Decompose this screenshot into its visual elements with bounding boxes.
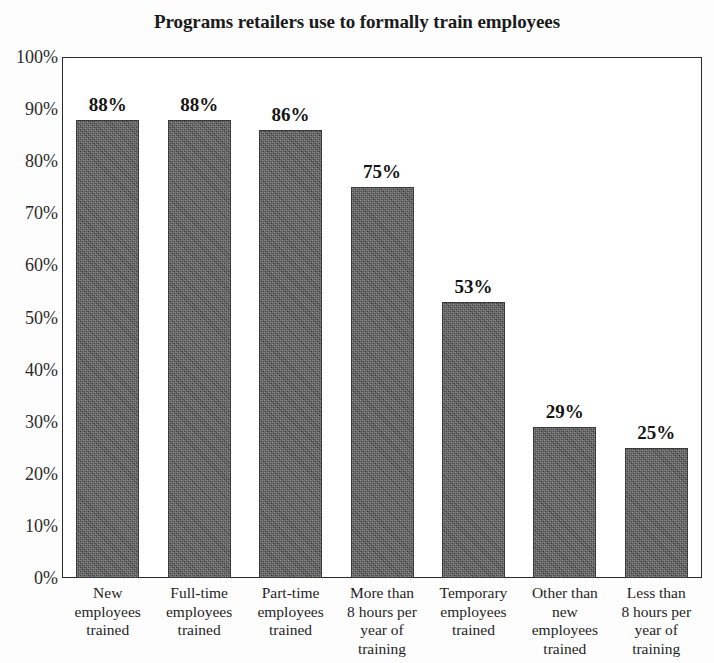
x-axis-category-label-line: employees [515, 621, 614, 640]
x-axis-category-label-line: trained [424, 621, 523, 640]
bar-value-label: 53% [428, 276, 519, 298]
x-axis-category-label-line: training [607, 640, 706, 659]
x-axis-category-label-line: employees [241, 603, 340, 622]
bar-value-label: 29% [519, 401, 610, 423]
bar [533, 427, 596, 578]
y-axis-tick-label: 50% [4, 307, 58, 328]
x-axis-category-label-line: year of [607, 621, 706, 640]
bar [351, 187, 414, 578]
x-axis-labels: NewemployeestrainedFull-timeemployeestra… [62, 584, 702, 663]
x-axis-category-label-line: trained [515, 640, 614, 659]
x-axis-category-label-line: 8 hours per [332, 603, 431, 622]
bar-value-label: 75% [337, 161, 428, 183]
y-axis-tick-label: 10% [4, 515, 58, 536]
x-axis-category-label-line: trained [149, 621, 248, 640]
y-axis-tick-label: 80% [4, 151, 58, 172]
x-axis-category-label-line: trained [58, 621, 157, 640]
x-axis-category-label-line: Part-time [241, 584, 340, 603]
x-axis-category-label: Newemployeestrained [58, 584, 157, 640]
y-axis-tick-label: 100% [4, 47, 58, 68]
bar-value-label: 88% [62, 94, 153, 116]
y-axis-labels: 100%90%80%70%60%50%40%30%20%10%0% [0, 0, 58, 663]
y-axis-tick-label: 20% [4, 463, 58, 484]
x-axis-category-label-line: employees [424, 603, 523, 622]
y-axis-tick-label: 90% [4, 99, 58, 120]
x-axis-category-label: Full-timeemployeestrained [149, 584, 248, 640]
x-axis-category-label-line: 8 hours per [607, 603, 706, 622]
x-axis-category-label: Less than8 hours peryear oftraining [607, 584, 706, 658]
x-axis-category-label-line: More than [332, 584, 431, 603]
bar-chart: Programs retailers use to formally train… [0, 0, 714, 663]
y-axis-tick-label: 60% [4, 255, 58, 276]
x-axis-category-label: Part-timeemployeestrained [241, 584, 340, 640]
bar-value-label: 86% [245, 104, 336, 126]
x-axis-category-label-line: training [332, 640, 431, 659]
x-axis-category-label-line: Less than [607, 584, 706, 603]
bar [259, 130, 322, 578]
bars-layer: 88%88%86%75%53%29%25% [62, 57, 702, 578]
x-axis-category-label-line: year of [332, 621, 431, 640]
x-axis-category-label: More than8 hours peryear oftraining [332, 584, 431, 658]
y-axis-tick-label: 70% [4, 203, 58, 224]
x-axis-category-label-line: employees [58, 603, 157, 622]
x-axis-category-label: Temporaryemployeestrained [424, 584, 523, 640]
chart-title: Programs retailers use to formally train… [0, 11, 714, 33]
bar [76, 120, 139, 578]
x-axis-category-label-line: Temporary [424, 584, 523, 603]
x-axis-category-label-line: New [58, 584, 157, 603]
bar-value-label: 25% [611, 422, 702, 444]
bar [625, 448, 688, 578]
x-axis-category-label-line: employees [149, 603, 248, 622]
x-axis-category-label-line: Other than [515, 584, 614, 603]
bar [442, 302, 505, 578]
y-axis-tick-label: 0% [4, 568, 58, 589]
bar-value-label: 88% [154, 94, 245, 116]
x-axis-category-label: Other thannewemployeestrained [515, 584, 614, 658]
x-axis-category-label-line: new [515, 603, 614, 622]
y-axis-tick-label: 40% [4, 359, 58, 380]
bar [168, 120, 231, 578]
x-axis-category-label-line: Full-time [149, 584, 248, 603]
x-axis-category-label-line: trained [241, 621, 340, 640]
y-axis-tick-label: 30% [4, 411, 58, 432]
